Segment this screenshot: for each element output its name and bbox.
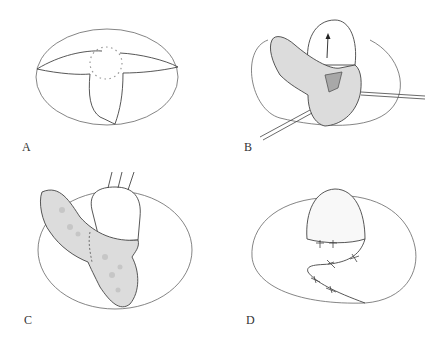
panel-label-b: B — [244, 140, 252, 155]
panel-c-drawing — [0, 172, 220, 343]
panel-d: D — [220, 172, 440, 343]
panel-label-c: C — [24, 313, 32, 328]
panel-b: B — [220, 0, 440, 172]
panel-a-drawing — [0, 0, 220, 172]
panel-label-a: A — [22, 140, 31, 155]
panel-b-drawing — [220, 0, 440, 172]
panel-a: A — [0, 0, 220, 172]
panel-c: C — [0, 172, 220, 343]
panel-label-d: D — [246, 313, 255, 328]
